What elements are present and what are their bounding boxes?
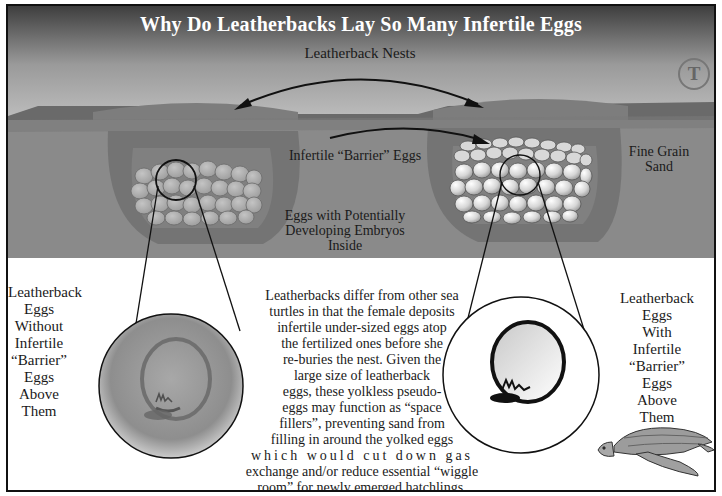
diagram-title: Why Do Leatherbacks Lay So Many Infertil… (8, 13, 714, 36)
text-line: filling in around the yolked eggs (230, 432, 494, 448)
text-line: large size of leatherback (230, 368, 494, 384)
text-line: eggs, these yolkless pseudo- (230, 384, 494, 400)
caption-line: Above (8, 386, 70, 403)
caption-line: Infertile (8, 335, 70, 352)
leatherback-turtle-icon (598, 428, 714, 476)
text-line: infertile under-sized eggs atop (230, 320, 494, 336)
label-line: Inside (270, 238, 420, 253)
trademark-circle-icon: T (678, 58, 710, 90)
caption-line: Infertile (608, 341, 706, 358)
caption-line: Eggs (608, 307, 706, 324)
label-line: Sand (614, 159, 704, 174)
caption-line: With (608, 324, 706, 341)
text-line: eggs may function as “space (230, 400, 494, 416)
caption-line: “Barrier” (608, 358, 706, 375)
label-barrier-eggs: Infertile “Barrier” Eggs (270, 148, 440, 163)
text-line: room” for newly emerged hatchlings. (230, 480, 494, 492)
caption-line: Leatherback (8, 284, 70, 301)
caption-line: Eggs (8, 369, 70, 386)
label-line: Fine Grain (614, 144, 704, 159)
caption-line: Eggs (8, 301, 70, 318)
caption-line: “Barrier” (8, 352, 70, 369)
text-line: Leatherbacks differ from other sea (230, 288, 494, 304)
caption-line: Eggs (608, 375, 706, 392)
text-line: re-buries the nest. Given the (230, 352, 494, 368)
right-panel-caption: Leatherback Eggs With Infertile “Barrier… (608, 290, 706, 426)
caption-line: Them (8, 403, 70, 420)
caption-line: Without (8, 318, 70, 335)
nest-cross-section: Why Do Leatherbacks Lay So Many Infertil… (8, 6, 714, 258)
text-line: which would cut down gas (230, 448, 494, 464)
explanation-text: Leatherbacks differ from other sea turtl… (230, 288, 494, 492)
egg-without-barrier-magnified-icon (99, 314, 243, 458)
text-line: turtles in that the female deposits (230, 304, 494, 320)
caption-line: Above (608, 392, 706, 409)
label-line: Developing Embryos (270, 223, 420, 238)
left-panel-caption: Leatherback Eggs Without Infertile “Barr… (8, 284, 70, 420)
label-line: Eggs with Potentially (270, 208, 420, 223)
diagram-frame: Why Do Leatherbacks Lay So Many Infertil… (6, 4, 716, 492)
text-line: the fertilized ones before she (230, 336, 494, 352)
text-line: exchange and/or reduce essential “wiggle (220, 464, 504, 480)
caption-line: Leatherback (608, 290, 706, 307)
label-fine-grain-sand: Fine Grain Sand (614, 144, 704, 174)
text-line: fillers”, preventing sand from (230, 416, 494, 432)
label-leatherback-nests: Leatherback Nests (260, 46, 460, 61)
caption-line: Them (608, 409, 706, 426)
label-developing-embryos: Eggs with Potentially Developing Embryos… (270, 208, 420, 253)
